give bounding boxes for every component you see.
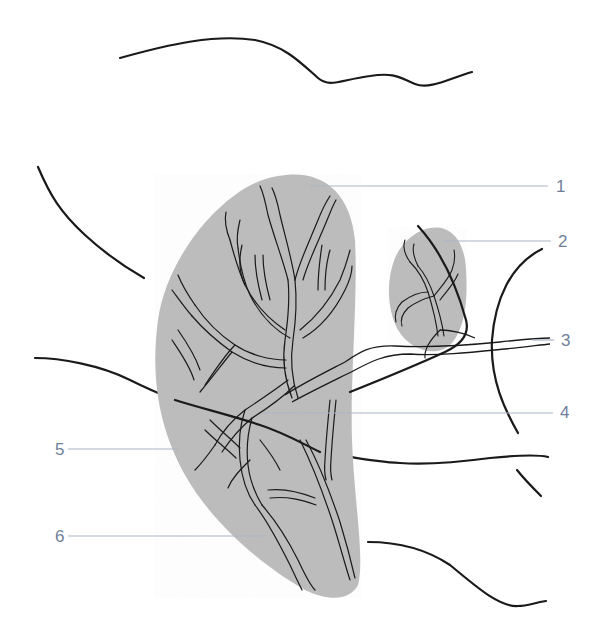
- contour-bottom-right: [368, 542, 546, 606]
- anatomical-diagram: [0, 0, 601, 641]
- contour-right-arc: [492, 249, 542, 433]
- callout-label-6: 6: [55, 528, 64, 545]
- callout-label-4: 4: [560, 404, 569, 421]
- contour-mid-left: [35, 358, 175, 400]
- callout-label-3: 3: [561, 332, 570, 349]
- contour-top: [120, 38, 472, 85]
- callout-label-2: 2: [558, 233, 567, 250]
- contour-lower-right: [320, 452, 548, 464]
- main-gland: [155, 174, 360, 597]
- callout-label-5: 5: [55, 441, 64, 458]
- contour-small-right: [517, 470, 541, 496]
- contour-upper-left: [38, 167, 144, 278]
- callout-label-1: 1: [556, 178, 565, 195]
